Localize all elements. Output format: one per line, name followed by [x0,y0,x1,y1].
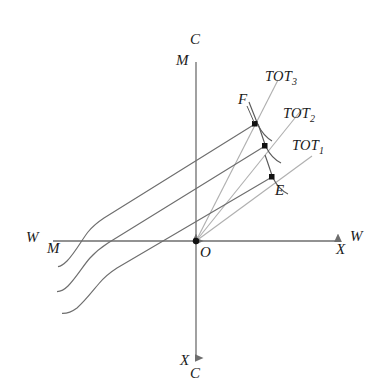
axis-label-c-bottom: C [190,366,200,380]
tot3-label-text: TOT [265,68,292,84]
tot1-label-subscript: 1 [319,145,324,156]
axis-label-c-top: C [190,32,200,47]
tot2-label-text: TOT [283,105,310,121]
axis-label-x-right: X [336,242,345,257]
axis-label-x-bottom: X [180,353,189,368]
axis-label-m-top: M [176,53,189,68]
tot3-label: TOT3 [265,69,297,87]
economic-diagram-figure: C M X C W M W X O F E TOT3 TOT2 TOT1 [0,0,385,380]
tot1-label: TOT1 [292,138,324,156]
point-marker-F [252,121,258,127]
tot2-label: TOT2 [283,106,315,124]
axis-label-w-right: W [350,229,363,244]
tot1-label-text: TOT [292,137,319,153]
point-label-e: E [275,183,284,198]
tot2-label-subscript: 2 [310,113,315,124]
tot3-ray [196,80,278,241]
offer-line-1 [62,177,272,313]
point-marker-E [269,174,275,180]
point-marker-mid [262,143,268,149]
diagram-canvas [0,0,385,380]
leader-line-F [247,106,254,122]
offer-line-group [57,124,272,313]
point-marker-origin [193,238,199,244]
axis-label-m-left: M [47,241,60,256]
tot3-label-subscript: 3 [292,76,297,87]
point-label-f: F [238,92,247,107]
axis-label-w-left: W [26,230,39,245]
axis-label-origin: O [200,245,211,260]
